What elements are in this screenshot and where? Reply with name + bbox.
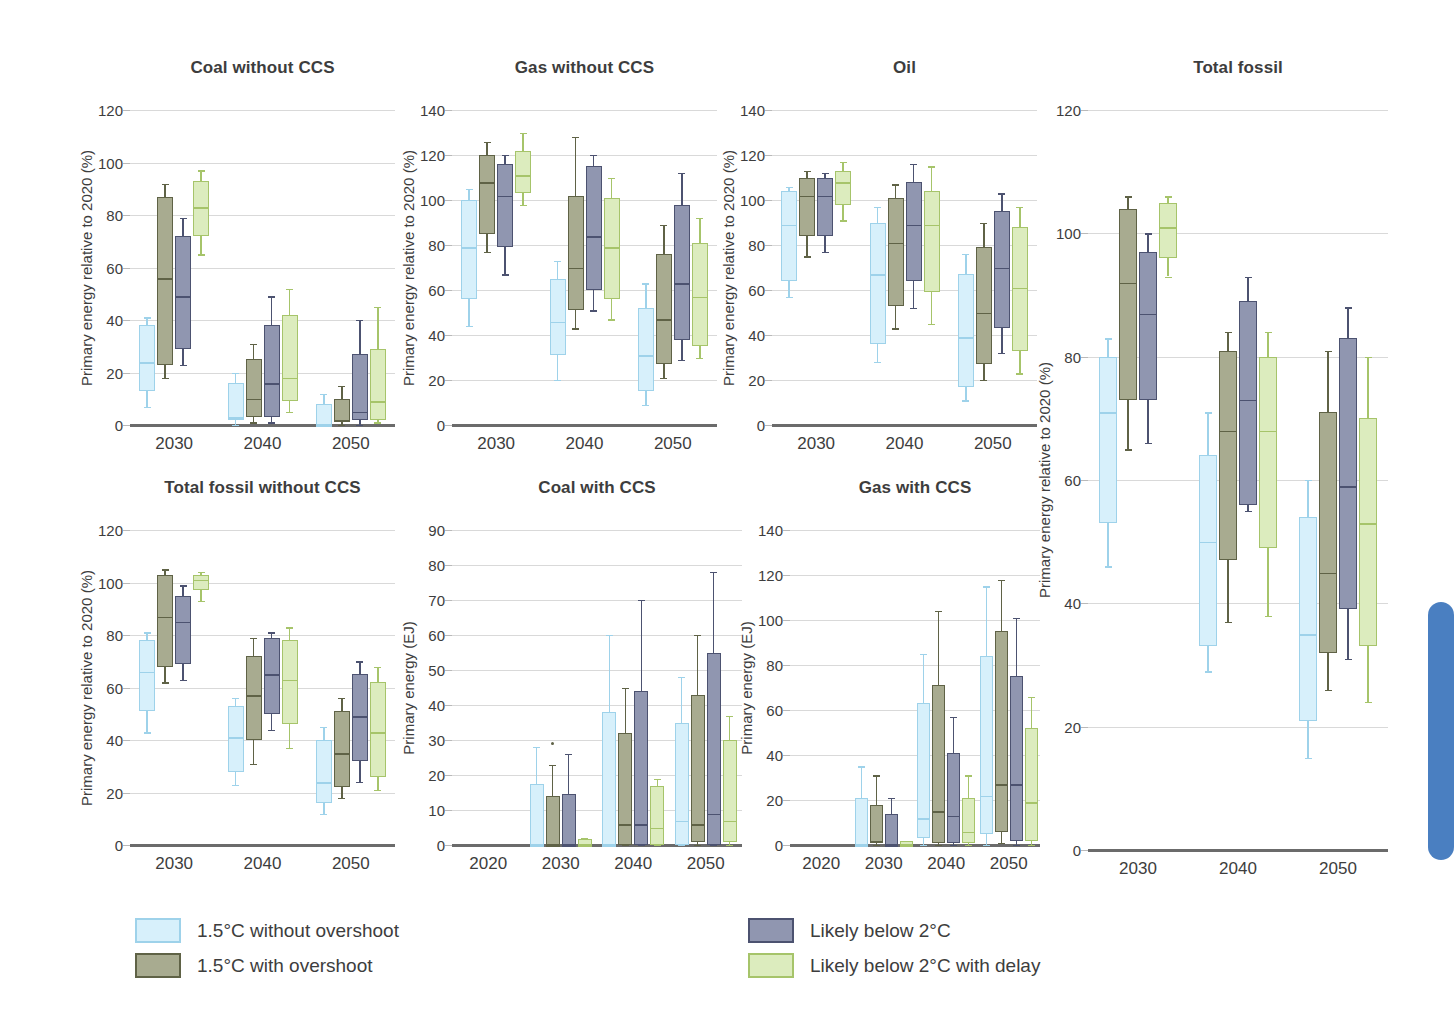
whisker-cap-lower <box>694 845 701 846</box>
box-plot-box <box>515 151 531 194</box>
whisker-cap-upper <box>356 661 363 662</box>
y-axis-tick-mark <box>445 155 452 156</box>
whisker-cap-upper <box>484 142 491 143</box>
box-plot-median <box>1010 784 1023 786</box>
box-plot-box <box>1239 301 1257 505</box>
y-axis-tick-mark <box>1081 357 1088 358</box>
box-plot-median <box>352 412 368 414</box>
whisker-cap-lower <box>1365 702 1372 703</box>
y-axis-tick-mark <box>1081 850 1088 851</box>
box-plot-box <box>976 247 992 364</box>
y-axis-tick-label: 100 <box>98 574 123 591</box>
box-plot-box <box>675 723 689 846</box>
box-plot-median <box>602 845 616 847</box>
whisker-cap-upper <box>1225 332 1232 333</box>
y-axis-tick-mark <box>445 810 452 811</box>
whisker-cap-lower <box>786 297 793 298</box>
box-plot-box <box>870 223 886 345</box>
box-plot-box <box>924 191 940 292</box>
box-plot-box <box>962 798 975 843</box>
whisker-cap-upper <box>520 133 527 134</box>
y-axis-tick-mark <box>765 200 772 201</box>
whisker-cap-upper <box>1105 338 1112 339</box>
y-axis-tick-mark <box>445 380 452 381</box>
box-plot-median <box>316 782 332 784</box>
whisker-cap-lower <box>983 845 990 846</box>
box-plot-median <box>994 268 1010 270</box>
legend-item[interactable]: 1.5°C with overshoot <box>135 953 373 978</box>
side-tab[interactable] <box>1428 602 1454 860</box>
y-axis-tick-mark <box>123 163 130 164</box>
whisker-cap-upper <box>338 698 345 699</box>
whisker-cap-upper <box>502 155 509 156</box>
whisker-cap-upper <box>180 218 187 219</box>
box-plot-median <box>604 247 620 249</box>
box-plot-median <box>370 732 386 734</box>
whisker-cap-upper <box>286 627 293 628</box>
whisker-cap-upper <box>965 775 972 776</box>
box-plot-median <box>906 225 922 227</box>
whisker-cap-upper <box>962 254 969 255</box>
x-axis-line <box>130 844 395 847</box>
y-axis-tick-mark <box>765 245 772 246</box>
whisker-cap-lower <box>590 310 597 311</box>
box-plot-median <box>228 737 244 739</box>
whisker-cap-lower <box>950 845 957 846</box>
y-axis-tick-label: 20 <box>766 792 783 809</box>
box-plot-box <box>1025 728 1038 841</box>
whisker-cap-lower <box>622 845 629 846</box>
box-plot-box <box>282 315 298 402</box>
box-plot-box <box>139 640 155 711</box>
gridline <box>772 110 1037 111</box>
gridline <box>772 380 1037 381</box>
box-plot-median <box>586 236 602 238</box>
x-axis-tick-label: 2040 <box>927 854 965 874</box>
box-plot-box <box>947 753 960 843</box>
box-plot-box <box>246 656 262 740</box>
y-axis-label: Primary energy relative to 2020 (%) <box>720 150 737 386</box>
box-plot-box <box>994 211 1010 328</box>
legend-swatch <box>135 953 181 978</box>
whisker-cap-lower <box>1016 373 1023 374</box>
gridline <box>130 530 395 531</box>
whisker-cap-lower <box>696 358 703 359</box>
gridline <box>790 620 1040 621</box>
y-axis-tick-mark <box>123 530 130 531</box>
legend-item[interactable]: Likely below 2°C with delay <box>748 953 1040 978</box>
y-axis-tick-label: 0 <box>115 417 123 434</box>
y-axis-tick-label: 0 <box>757 417 765 434</box>
box-plot-box <box>497 164 513 247</box>
legend-item[interactable]: 1.5°C without overshoot <box>135 918 399 943</box>
whisker-cap-upper <box>888 798 895 799</box>
box-plot-box <box>316 404 332 425</box>
box-plot-median <box>634 824 648 826</box>
whisker-cap-lower <box>374 790 381 791</box>
box-plot-median <box>638 355 654 357</box>
box-plot-median <box>515 175 531 177</box>
whisker-cap-upper <box>1345 307 1352 308</box>
y-axis-tick-mark <box>445 635 452 636</box>
whisker-cap-upper <box>232 373 239 374</box>
whisker-cap-lower <box>874 362 881 363</box>
box-plot-box <box>980 656 993 834</box>
box-plot-median <box>962 832 975 834</box>
whisker-cap-lower <box>198 601 205 602</box>
y-axis-tick-mark <box>123 583 130 584</box>
box-plot-box <box>817 178 833 237</box>
box-plot-box <box>995 631 1008 831</box>
x-axis-tick-label: 2050 <box>1319 859 1357 879</box>
whisker-cap-lower <box>892 328 899 329</box>
whisker-cap-lower <box>268 422 275 423</box>
whisker-cap-upper <box>935 611 942 612</box>
legend-item[interactable]: Likely below 2°C <box>748 918 951 943</box>
box-plot-median <box>139 362 155 364</box>
gridline <box>130 163 395 164</box>
box-plot-median <box>1199 542 1217 544</box>
y-axis-label: Primary energy (EJ) <box>400 621 417 754</box>
box-plot-box <box>958 274 974 387</box>
box-plot-box <box>618 733 632 845</box>
x-axis-tick-label: 2020 <box>802 854 840 874</box>
whisker-cap-upper <box>554 261 561 262</box>
whisker-cap-upper <box>1125 196 1132 197</box>
y-axis-tick-mark <box>445 845 452 846</box>
